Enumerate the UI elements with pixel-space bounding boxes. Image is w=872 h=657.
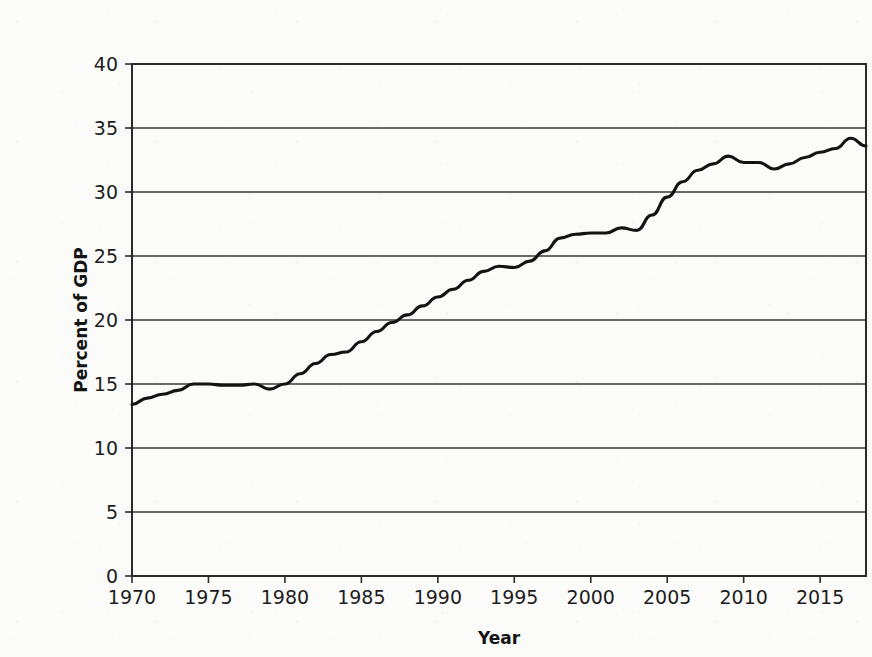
x-tick-label: 1995 bbox=[490, 586, 538, 608]
y-axis-tick-labels: 0510152025303540 bbox=[94, 53, 118, 587]
y-tick-label: 40 bbox=[94, 53, 118, 75]
y-axis-title: Percent of GDP bbox=[71, 247, 91, 393]
y-tick-label: 0 bbox=[106, 565, 118, 587]
x-axis-title: Year bbox=[477, 628, 521, 648]
x-tick-label: 2015 bbox=[796, 586, 844, 608]
y-tick-label: 25 bbox=[94, 245, 118, 267]
x-tick-label: 1980 bbox=[261, 586, 309, 608]
x-axis-tick-labels: 1970197519801985199019952000200520102015 bbox=[108, 586, 844, 608]
line-chart-figure: 0510152025303540 19701975198019851990199… bbox=[40, 16, 820, 641]
x-tick-label: 1975 bbox=[184, 586, 232, 608]
axis-tick-marks bbox=[125, 64, 820, 583]
y-tick-label: 15 bbox=[94, 373, 118, 395]
x-tick-label: 1970 bbox=[108, 586, 156, 608]
y-tick-label: 5 bbox=[106, 501, 118, 523]
x-tick-label: 2005 bbox=[643, 586, 691, 608]
x-tick-label: 2000 bbox=[567, 586, 615, 608]
y-tick-label: 35 bbox=[94, 117, 118, 139]
x-tick-label: 2010 bbox=[719, 586, 767, 608]
x-tick-label: 1985 bbox=[337, 586, 385, 608]
y-tick-label: 10 bbox=[94, 437, 118, 459]
chart-canvas: 0510152025303540 19701975198019851990199… bbox=[40, 16, 872, 657]
x-tick-label: 1990 bbox=[414, 586, 462, 608]
y-tick-label: 30 bbox=[94, 181, 118, 203]
percent-of-gdp-line bbox=[132, 138, 866, 404]
y-tick-label: 20 bbox=[94, 309, 118, 331]
data-series-group bbox=[132, 138, 866, 404]
horizontal-gridlines bbox=[132, 128, 866, 512]
